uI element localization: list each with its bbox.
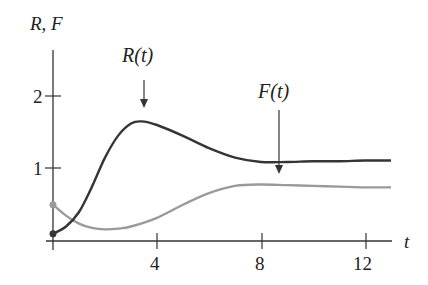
series-f-line — [53, 184, 391, 229]
annotation-r-label: R(t) — [121, 44, 153, 67]
annotation-f-label: F(t) — [257, 80, 289, 103]
y-axis-label: R, F — [29, 13, 63, 34]
chart: 2 1 4 8 12 R, F t R(t) F(t) — [0, 0, 428, 285]
arrowhead-icon — [140, 99, 148, 108]
series-f-start-point — [50, 201, 57, 208]
series-r-start-point — [50, 230, 57, 237]
y-tick-label-2: 2 — [33, 86, 43, 107]
x-tick-label-4: 4 — [150, 253, 160, 274]
series-r-line — [53, 121, 391, 233]
x-axis-label: t — [404, 231, 410, 252]
arrowhead-icon — [275, 165, 283, 174]
y-tick-label-1: 1 — [33, 158, 43, 179]
x-tick-label-8: 8 — [255, 253, 265, 274]
x-tick-label-12: 12 — [353, 253, 372, 274]
